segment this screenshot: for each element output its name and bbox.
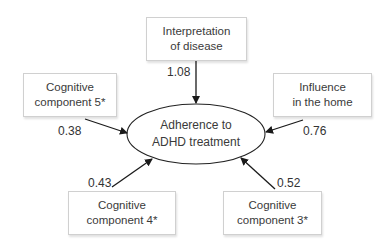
node-label-line2: component 4*	[87, 213, 158, 228]
node-label-line1: Cognitive	[98, 198, 146, 213]
node-label-line2: component 3*	[237, 213, 308, 228]
outcome-node: Adherence to ADHD treatment	[127, 104, 265, 164]
arrow-influence	[266, 120, 303, 132]
node-influence-in-the-home: Influence in the home	[273, 73, 372, 117]
node-cognitive-component-3: Cognitive component 3*	[223, 191, 322, 235]
weight-cog5: 0.38	[58, 124, 81, 138]
node-label-line2: in the home	[292, 95, 352, 110]
node-cognitive-component-5: Cognitive component 5*	[23, 73, 117, 117]
node-label-line2: component 5*	[35, 95, 106, 110]
weight-interpretation: 1.08	[167, 65, 190, 79]
node-cognitive-component-4: Cognitive component 4*	[68, 191, 176, 235]
node-label-line1: Cognitive	[46, 80, 94, 95]
outcome-line2: ADHD treatment	[152, 134, 240, 151]
weight-cog3: 0.52	[277, 176, 300, 190]
outcome-line1: Adherence to	[160, 117, 231, 134]
node-label-line1: Cognitive	[249, 198, 297, 213]
node-interpretation-of-disease: Interpretation of disease	[146, 17, 247, 61]
arrow-cog5	[85, 119, 127, 133]
node-label-line2: of disease	[170, 39, 222, 54]
weight-influence: 0.76	[303, 124, 326, 138]
weight-cog4: 0.43	[88, 176, 111, 190]
node-label-line1: Interpretation	[163, 24, 231, 39]
node-label-line1: Influence	[299, 80, 346, 95]
